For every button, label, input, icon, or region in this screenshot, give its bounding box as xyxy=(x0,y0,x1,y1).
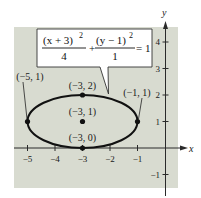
y-axis-label: y xyxy=(161,7,167,18)
equation-exponent-1: 2 xyxy=(79,31,83,40)
label-center: (−3, 1) xyxy=(69,106,96,118)
ellipse-graph: x y −5 −4 −3 −2 −1 4 3 2 1 −1 (−5, 1 xyxy=(0,0,201,198)
label-top-co-vertex: (−3, 2) xyxy=(69,80,96,92)
y-tick-label: 4 xyxy=(156,37,161,47)
x-tick-label: −5 xyxy=(23,154,33,164)
y-tick-label: 2 xyxy=(156,90,161,100)
point-center xyxy=(80,119,85,124)
y-tick-label: −1 xyxy=(150,170,160,180)
y-tick-label: 1 xyxy=(156,117,161,127)
equation-equals: = 1 xyxy=(136,42,150,54)
label-right-vertex: (−1, 1) xyxy=(123,87,150,99)
point-top-co-vertex xyxy=(80,92,85,97)
equation-denominator-1: 4 xyxy=(61,50,67,62)
equation-exponent-2: 2 xyxy=(129,31,133,40)
point-left-vertex xyxy=(25,119,30,124)
equation-plus: + xyxy=(89,42,95,54)
x-axis-label: x xyxy=(188,143,194,154)
x-tick-label: −1 xyxy=(133,154,143,164)
label-left-vertex: (−5, 1) xyxy=(16,71,43,83)
equation-numerator-1: (x + 3) xyxy=(43,34,73,47)
equation-numerator-2: (y − 1) xyxy=(96,34,126,47)
equation-denominator-2: 1 xyxy=(112,50,118,62)
label-bottom-co-vertex: (−3, 0) xyxy=(69,132,96,144)
x-tick-label: −3 xyxy=(78,154,88,164)
y-axis-arrow-icon xyxy=(163,21,168,29)
point-bottom-co-vertex xyxy=(80,145,85,150)
point-right-vertex xyxy=(135,119,140,124)
y-tick-label: 3 xyxy=(156,64,161,74)
x-tick-label: −4 xyxy=(50,154,60,164)
x-tick-label: −2 xyxy=(105,154,115,164)
x-axis-arrow-icon xyxy=(180,146,188,151)
